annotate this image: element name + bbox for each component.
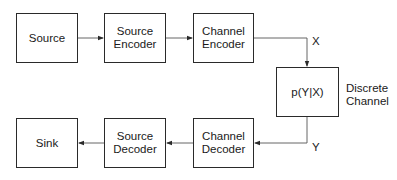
channel-decoder-label: Channel Decoder xyxy=(202,130,245,156)
discrete-channel-box: p(Y|X) xyxy=(276,67,339,117)
source-encoder-box: Source Encoder xyxy=(104,13,166,63)
arrow-channel-to-channel-decoder xyxy=(255,117,307,143)
channel-decoder-box: Channel Decoder xyxy=(193,118,254,168)
channel-encoder-box: Channel Encoder xyxy=(193,13,254,63)
y-signal-label: Y xyxy=(312,141,320,154)
discrete-channel-caption: Discrete Channel xyxy=(346,82,389,108)
arrow-channel-encoder-to-channel xyxy=(254,38,307,66)
channel-encoder-label: Channel Encoder xyxy=(202,25,245,51)
sink-box: Sink xyxy=(16,118,78,168)
source-label: Source xyxy=(29,32,65,45)
x-signal-label: X xyxy=(312,35,320,48)
source-decoder-box: Source Decoder xyxy=(104,118,166,168)
channel-transition-label: p(Y|X) xyxy=(291,86,323,99)
source-decoder-label: Source Decoder xyxy=(113,130,156,156)
source-encoder-label: Source Encoder xyxy=(114,25,157,51)
sink-label: Sink xyxy=(36,137,58,150)
source-box: Source xyxy=(16,13,78,63)
